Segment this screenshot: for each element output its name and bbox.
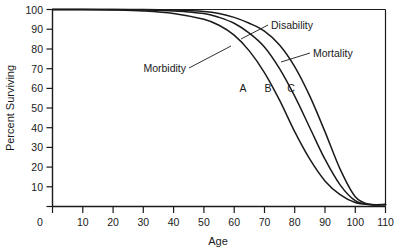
x-ticklabel-90: 90 [319,216,331,228]
x-axis-title: Age [208,235,228,247]
y-axis-title: Percent Surviving [4,65,16,151]
y-ticklabel-80: 80 [31,43,43,55]
survival-curves-chart: 100 90 80 70 60 50 40 30 20 10 0 10 20 3… [0,0,418,252]
x-ticklabel-110: 110 [377,216,394,228]
curve-label-a: A [239,82,246,94]
y-ticklabel-70: 70 [31,63,43,75]
chart-background [0,0,418,252]
y-ticklabel-20: 20 [31,161,43,173]
annotation-disability: Disability [271,19,314,31]
y-ticklabel-30: 30 [31,141,43,153]
x-ticklabel-30: 30 [137,216,149,228]
chart-svg: 100 90 80 70 60 50 40 30 20 10 0 10 20 3… [0,0,418,252]
y-ticklabel-90: 90 [31,23,43,35]
x-ticklabel-100: 100 [347,216,365,228]
x-ticklabel-50: 50 [198,216,210,228]
y-ticklabel-60: 60 [31,82,43,94]
x-ticklabel-60: 60 [228,216,240,228]
annotation-mortality: Mortality [313,47,353,59]
curve-label-c: C [287,82,295,94]
y-ticklabel-40: 40 [31,122,43,134]
y-ticklabel-100: 100 [25,4,43,16]
x-ticklabel-0: 0 [37,216,43,228]
x-ticklabel-40: 40 [168,216,180,228]
x-ticklabel-20: 20 [107,216,119,228]
y-ticklabel-50: 50 [31,102,43,114]
y-ticklabel-10: 10 [31,181,43,193]
x-ticklabel-80: 80 [289,216,301,228]
annotation-morbidity: Morbidity [143,62,186,74]
x-ticklabel-10: 10 [77,216,89,228]
curve-label-b: B [264,82,271,94]
x-ticklabel-70: 70 [259,216,271,228]
